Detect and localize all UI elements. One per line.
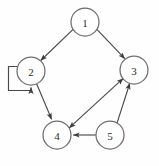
- node-label-4: 4: [54, 130, 60, 142]
- graph-canvas: 1 2 3 4 5: [0, 0, 159, 166]
- edge-5-to-3: [117, 83, 130, 123]
- graph-node-1[interactable]: 1: [71, 8, 99, 36]
- node-label-2: 2: [28, 66, 34, 78]
- node-layer: 1 2 3 4 5: [17, 8, 148, 149]
- edge-4-to-3-bidirectional: [69, 78, 123, 128]
- node-label-3: 3: [131, 65, 137, 77]
- graph-node-3[interactable]: 3: [120, 56, 148, 84]
- graph-node-4[interactable]: 4: [43, 121, 71, 149]
- graph-node-2[interactable]: 2: [17, 57, 45, 85]
- node-label-5: 5: [107, 130, 113, 142]
- graph-node-5[interactable]: 5: [96, 121, 124, 149]
- edge-2-to-4: [37, 84, 52, 120]
- directed-graph-figure: 1 2 3 4 5: [0, 0, 159, 166]
- edge-1-to-2: [41, 29, 73, 60]
- node-label-1: 1: [82, 17, 88, 29]
- edge-1-to-3: [97, 29, 125, 58]
